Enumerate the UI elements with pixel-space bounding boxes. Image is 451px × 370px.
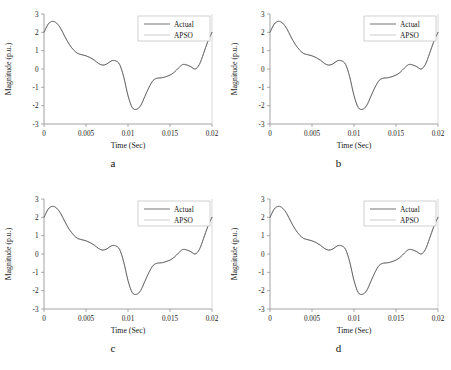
plot-area: -3-2-1012300.0050.010.0150.02Time (Sec)M… xyxy=(226,0,451,158)
legend-label-actual: Actual xyxy=(400,205,420,214)
y-tick-label: -2 xyxy=(33,102,39,110)
y-axis-title: Magnitude (p.u.) xyxy=(230,42,239,95)
y-tick-label: -3 xyxy=(259,121,265,129)
x-axis-title: Time (Sec) xyxy=(337,141,372,150)
y-tick-label: 3 xyxy=(35,196,39,204)
x-tick-label: 0 xyxy=(42,315,46,323)
y-tick-label: 2 xyxy=(261,29,265,37)
legend-label-actual: Actual xyxy=(174,205,194,214)
x-tick-label: 0.01 xyxy=(348,315,361,323)
chart-panel-c: -3-2-1012300.0050.010.0150.02Time (Sec)M… xyxy=(0,185,226,370)
x-tick-label: 0.02 xyxy=(432,315,445,323)
chart-panel-a: -3-2-1012300.0050.010.0150.02Time (Sec)M… xyxy=(0,0,226,185)
y-tick-label: 1 xyxy=(35,47,39,55)
legend-label-apso: APSO xyxy=(400,31,420,40)
y-tick-label: 0 xyxy=(261,251,265,259)
y-tick-label: 0 xyxy=(261,66,265,74)
y-tick-label: -2 xyxy=(259,102,265,110)
y-tick-label: -3 xyxy=(33,121,39,129)
x-tick-label: 0.02 xyxy=(432,130,445,138)
y-tick-label: -1 xyxy=(259,84,265,92)
y-tick-label: -1 xyxy=(33,269,39,277)
x-axis-title: Time (Sec) xyxy=(337,326,372,335)
y-tick-label: 2 xyxy=(261,214,265,222)
panel-letter: b xyxy=(226,157,451,169)
x-tick-label: 0.02 xyxy=(206,130,219,138)
x-tick-label: 0.01 xyxy=(122,315,135,323)
x-tick-label: 0.01 xyxy=(122,130,135,138)
panel-letter: a xyxy=(0,157,226,169)
y-tick-label: 2 xyxy=(35,29,39,37)
x-tick-label: 0.005 xyxy=(78,315,95,323)
panel-letter: c xyxy=(0,342,226,354)
x-axis-title: Time (Sec) xyxy=(111,326,146,335)
y-tick-label: 3 xyxy=(261,11,265,19)
legend-label-apso: APSO xyxy=(174,216,194,225)
legend-label-apso: APSO xyxy=(400,216,420,225)
legend-label-apso: APSO xyxy=(174,31,194,40)
y-tick-label: -3 xyxy=(33,306,39,314)
legend: ActualAPSO xyxy=(138,201,210,226)
plot-area: -3-2-1012300.0050.010.0150.02Time (Sec)M… xyxy=(0,185,226,343)
figure-grid: -3-2-1012300.0050.010.0150.02Time (Sec)M… xyxy=(0,0,451,370)
y-tick-label: -2 xyxy=(33,287,39,295)
y-tick-label: 3 xyxy=(35,11,39,19)
x-axis-title: Time (Sec) xyxy=(111,141,146,150)
legend: ActualAPSO xyxy=(138,16,210,41)
y-tick-label: 2 xyxy=(35,214,39,222)
legend-label-actual: Actual xyxy=(400,20,420,29)
x-tick-label: 0.015 xyxy=(162,130,179,138)
y-tick-label: -3 xyxy=(259,306,265,314)
x-tick-label: 0.01 xyxy=(348,130,361,138)
y-tick-label: 0 xyxy=(35,251,39,259)
x-tick-label: 0 xyxy=(42,130,46,138)
y-axis-title: Magnitude (p.u.) xyxy=(4,227,13,280)
x-tick-label: 0 xyxy=(268,315,272,323)
y-tick-label: 1 xyxy=(261,232,265,240)
legend-label-actual: Actual xyxy=(174,20,194,29)
x-tick-label: 0 xyxy=(268,130,272,138)
x-tick-label: 0.015 xyxy=(388,315,405,323)
x-tick-label: 0.015 xyxy=(162,315,179,323)
y-tick-label: 3 xyxy=(261,196,265,204)
panel-letter: d xyxy=(226,342,451,354)
y-tick-label: -1 xyxy=(259,269,265,277)
legend: ActualAPSO xyxy=(364,201,436,226)
y-tick-label: -1 xyxy=(33,84,39,92)
x-tick-label: 0.015 xyxy=(388,130,405,138)
y-axis-title: Magnitude (p.u.) xyxy=(4,42,13,95)
x-tick-label: 0.02 xyxy=(206,315,219,323)
chart-panel-d: -3-2-1012300.0050.010.0150.02Time (Sec)M… xyxy=(226,185,451,370)
y-axis-title: Magnitude (p.u.) xyxy=(230,227,239,280)
y-tick-label: 1 xyxy=(261,47,265,55)
plot-area: -3-2-1012300.0050.010.0150.02Time (Sec)M… xyxy=(226,185,451,343)
y-tick-label: -2 xyxy=(259,287,265,295)
y-tick-label: 0 xyxy=(35,66,39,74)
x-tick-label: 0.005 xyxy=(304,130,321,138)
y-tick-label: 1 xyxy=(35,232,39,240)
x-tick-label: 0.005 xyxy=(78,130,95,138)
plot-area: -3-2-1012300.0050.010.0150.02Time (Sec)M… xyxy=(0,0,226,158)
x-tick-label: 0.005 xyxy=(304,315,321,323)
legend: ActualAPSO xyxy=(364,16,436,41)
chart-panel-b: -3-2-1012300.0050.010.0150.02Time (Sec)M… xyxy=(226,0,451,185)
